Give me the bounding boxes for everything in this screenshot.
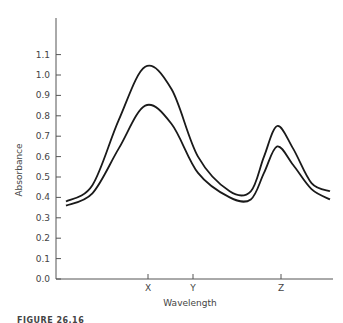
y-tick-label: 0.0 bbox=[36, 274, 51, 284]
y-tick-label: 0.5 bbox=[36, 172, 50, 182]
upper-absorbance-curve bbox=[66, 66, 330, 202]
y-tick-label: 0.3 bbox=[36, 213, 50, 223]
y-tick-label: 0.2 bbox=[36, 233, 50, 243]
y-tick-label: 0.1 bbox=[36, 254, 50, 264]
x-tick-label: Z bbox=[278, 283, 284, 293]
x-axis-title: Wavelength bbox=[163, 298, 216, 308]
y-tick-label: 0.9 bbox=[36, 90, 51, 100]
y-tick-label: 0.6 bbox=[36, 152, 51, 162]
figure-caption: FIGURE 26.16 bbox=[17, 316, 84, 323]
y-tick-label: 0.7 bbox=[36, 131, 50, 141]
y-tick-label: 0.4 bbox=[36, 192, 51, 202]
y-tick-label: 1.1 bbox=[36, 50, 50, 60]
absorbance-chart: 0.00.10.20.30.40.50.60.70.80.91.01.1 XYZ… bbox=[0, 0, 343, 323]
x-tick-label: X bbox=[145, 283, 151, 293]
y-axis-title: Absorbance bbox=[14, 143, 24, 197]
x-ticks: XYZ bbox=[145, 274, 284, 293]
x-tick-label: Y bbox=[189, 283, 196, 293]
y-tick-label: 0.8 bbox=[36, 111, 51, 121]
data-series bbox=[66, 66, 330, 206]
y-ticks: 0.00.10.20.30.40.50.60.70.80.91.01.1 bbox=[36, 50, 61, 284]
y-tick-label: 1.0 bbox=[36, 70, 51, 80]
